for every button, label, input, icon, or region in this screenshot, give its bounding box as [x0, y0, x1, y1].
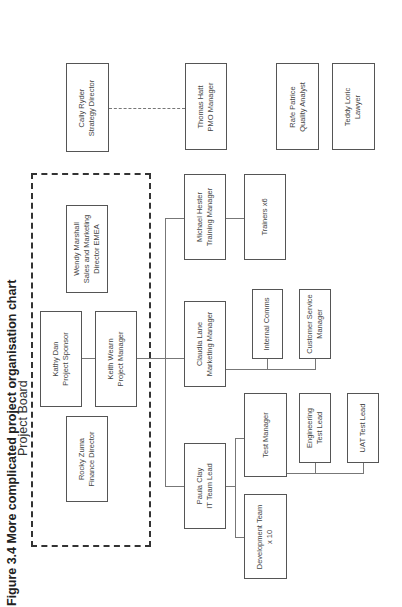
- node-role: Project Sponsor: [61, 332, 71, 385]
- node-internal-comms: Internal Comms: [252, 289, 283, 359]
- node-rafe-patrice: Rafe PatriceQuality Analyst: [276, 63, 319, 150]
- dotted-connector: [109, 108, 185, 109]
- connector: [267, 359, 268, 369]
- node-role: Test Lead: [315, 408, 325, 448]
- node-name: Keith Wearn: [106, 331, 116, 386]
- node-rocky-zuma: Rocky ZumaFinance Director: [66, 416, 108, 502]
- node-name: Claudia Lane: [195, 312, 205, 377]
- node-role: Quality Analyst: [298, 82, 308, 132]
- node-role: PMO Manager: [206, 82, 216, 131]
- node-name: Development Team: [256, 504, 266, 568]
- node-role: IT Team Lead: [205, 463, 215, 509]
- node-teddy-loric: Teddy LoricLawyer: [332, 63, 375, 150]
- node-name: Wendy Marshall: [72, 215, 82, 283]
- project-board-label: Project Board: [14, 376, 32, 456]
- node-role: Lawyer: [353, 87, 363, 125]
- node-development-team: Development Teamx 10: [244, 494, 287, 579]
- node-role: Finance Director: [87, 431, 97, 486]
- connector: [82, 358, 95, 359]
- connector: [235, 438, 244, 439]
- node-name: Cally Ryder: [78, 79, 88, 135]
- node-test-manager: Test Manager: [244, 393, 287, 477]
- node-role: x 10: [266, 504, 276, 568]
- node-claudia-lane: Claudia LaneMarketing Manager: [184, 301, 226, 387]
- node-michael-hester: Michael HesterTraining Manager: [184, 174, 226, 260]
- node-role: Director EMEA: [92, 215, 102, 283]
- node-name: Michael Hester: [195, 188, 205, 247]
- node-name: Thomas Hatt: [196, 82, 206, 131]
- connector: [226, 369, 316, 370]
- node-role: Marketing Manager: [205, 312, 215, 377]
- node-cally-ryder: Cally RyderStrategy Director: [66, 63, 109, 152]
- node-role: Project Manager: [116, 331, 126, 386]
- connector: [165, 486, 184, 487]
- connector: [363, 463, 364, 473]
- node-kathy-dan: Kathy DanProject Sponsor: [40, 311, 82, 407]
- node-uat-test-lead: UAT Test Lead: [347, 393, 379, 463]
- node-trainers: Trainers x6: [244, 174, 286, 260]
- node-thomas-hatt: Thomas HattPMO Manager: [185, 63, 227, 150]
- node-name: Trainers x6: [260, 198, 270, 235]
- node-role: Training Manager: [205, 188, 215, 247]
- node-role: Manager: [315, 294, 325, 354]
- connector: [286, 473, 364, 474]
- connector: [315, 359, 316, 369]
- connector: [137, 358, 184, 359]
- node-name: Rafe Patrice: [288, 82, 298, 132]
- connector: [235, 438, 236, 537]
- node-name: Paula Clay: [195, 463, 205, 509]
- node-name: Teddy Loric: [343, 87, 353, 125]
- connector: [235, 537, 244, 538]
- node-role: Strategy Director: [88, 79, 98, 135]
- figure-title: Figure 3.4 More complicated project orga…: [4, 136, 20, 606]
- node-name: Kathy Dan: [51, 332, 61, 385]
- node-customer-service-manager: Customer ServiceManager: [299, 289, 331, 359]
- node-name: Rocky Zuma: [77, 431, 87, 486]
- node-name: Customer Service: [305, 294, 315, 354]
- node-keith-wearn: Keith WearnProject Manager: [95, 311, 137, 407]
- node-name: Engineering: [305, 408, 315, 448]
- connector: [165, 218, 184, 219]
- node-role: Sales and Marketing: [82, 215, 92, 283]
- node-name: Test Manager: [261, 412, 271, 457]
- connector: [226, 218, 244, 219]
- node-paula-clay: Paula ClayIT Team Lead: [184, 443, 226, 529]
- node-name: UAT Test Lead: [358, 404, 368, 453]
- node-engineering-test-lead: EngineeringTest Lead: [299, 393, 331, 463]
- node-name: Internal Comms: [263, 298, 273, 351]
- connector: [315, 463, 316, 473]
- node-wendy-marshall: Wendy MarshallSales and MarketingDirecto…: [66, 205, 108, 293]
- connector: [165, 218, 166, 486]
